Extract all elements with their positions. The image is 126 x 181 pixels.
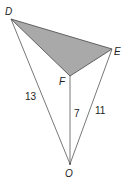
point-o-dot: [69, 163, 71, 165]
geometry-diagram: D E F O 13 7 11: [0, 0, 126, 181]
label-d: D: [5, 6, 12, 17]
shaded-triangle-def: [11, 19, 112, 76]
label-o: O: [65, 168, 73, 179]
label-f: F: [59, 76, 66, 87]
label-e: E: [114, 46, 121, 57]
length-eo: 11: [95, 105, 106, 116]
length-fo: 7: [74, 108, 80, 119]
length-do: 13: [25, 91, 37, 102]
